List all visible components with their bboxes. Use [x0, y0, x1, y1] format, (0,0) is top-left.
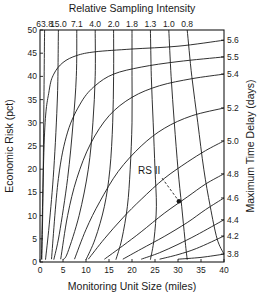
x-tick-label: 30: [173, 265, 183, 275]
time-delay-curve-4-8: [104, 174, 224, 259]
chart: Relative Sampling Intensity 051015202530…: [0, 0, 260, 299]
top-tick-label: 15.0: [50, 19, 67, 29]
y-tick-label: 45: [28, 48, 38, 58]
sampling-intensity-curve-1-8: [116, 30, 132, 260]
right-tick-label: 5.5: [227, 52, 239, 62]
annotation-leader: [162, 178, 179, 201]
sampling-intensity-curve-4-0: [63, 30, 95, 260]
right-tick-label: 3.8: [227, 249, 239, 259]
y-tick-label: 5: [32, 234, 37, 244]
sampling-intensity-curve-0-8: [187, 30, 224, 254]
top-tick-label: 1.3: [144, 19, 156, 29]
sampling-intensity-curve-7-1: [54, 30, 77, 260]
x-tick-label: 10: [81, 265, 91, 275]
x-tick-label: 0: [38, 265, 43, 275]
top-tick-label: 1.8: [126, 19, 138, 29]
time-delay-curve-5-2: [75, 108, 225, 259]
y-tick-label: 25: [28, 141, 38, 151]
top-tick-label: 7.1: [71, 19, 83, 29]
x-tick-label: 25: [150, 265, 160, 275]
annotation-point: [177, 199, 182, 204]
y2-axis-title: Maximum Time Delay (days): [244, 79, 256, 212]
y-tick-label: 15: [28, 187, 38, 197]
y-tick-label: 40: [28, 71, 38, 81]
annotation-label: RS II: [138, 165, 160, 176]
time-delay-curve-5-6: [41, 40, 224, 259]
top-tick-label: 1.0: [163, 19, 175, 29]
right-tick-label: 4.6: [227, 193, 239, 203]
right-tick-label: 5.2: [227, 103, 239, 113]
y-tick-label: 20: [28, 164, 38, 174]
y-tick-label: 10: [28, 211, 38, 221]
right-tick-label: 4.8: [227, 169, 239, 179]
chart-title: Relative Sampling Intensity: [69, 2, 196, 14]
x-tick-label: 5: [61, 265, 66, 275]
right-tick-label: 5.0: [227, 136, 239, 146]
x-axis-title: Monitoring Unit Size (miles): [68, 280, 196, 292]
time-delay-curve-5-5: [52, 57, 225, 259]
sampling-intensity-curve-1-0: [169, 30, 187, 260]
top-tick-label: 2.0: [108, 19, 120, 29]
right-tick-label: 4.4: [227, 215, 239, 225]
x-tick-label: 35: [196, 265, 206, 275]
sampling-intensity-curve-15-0: [46, 30, 59, 260]
right-tick-label: 5.4: [227, 69, 239, 79]
top-tick-label: 0.8: [181, 19, 193, 29]
x-tick-label: 20: [127, 265, 137, 275]
y-axis-title: Economic Risk (pct): [3, 99, 15, 192]
top-tick-label: 4.0: [89, 19, 101, 29]
time-delay-curve-3-8: [178, 254, 224, 259]
x-tick-label: 40: [219, 265, 229, 275]
y-tick-label: 30: [28, 118, 38, 128]
y-tick-label: 0: [32, 257, 37, 267]
x-tick-label: 15: [104, 265, 114, 275]
curve-layer: [41, 30, 224, 260]
right-tick-label: 5.6: [227, 35, 239, 45]
y-tick-label: 35: [28, 95, 38, 105]
right-tick-label: 4.2: [227, 231, 239, 241]
